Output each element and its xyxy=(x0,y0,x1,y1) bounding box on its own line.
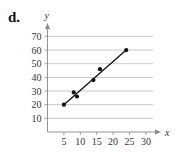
y-tick-label: 30 xyxy=(32,86,42,97)
x-tick-label: 20 xyxy=(108,136,118,147)
data-point xyxy=(98,67,102,71)
data-point xyxy=(124,48,128,52)
y-tick-label: 50 xyxy=(32,58,42,69)
y-tick-label: 20 xyxy=(32,99,42,110)
data-point xyxy=(62,103,66,107)
data-point xyxy=(91,78,95,82)
y-tick-label: 70 xyxy=(32,31,42,42)
y-axis-arrow-icon xyxy=(45,23,50,29)
data-point xyxy=(75,94,79,98)
y-tick-label: 60 xyxy=(32,45,42,56)
data-point xyxy=(72,90,76,94)
x-axis-arrow-icon xyxy=(155,130,161,135)
y-tick-label: 40 xyxy=(32,72,42,83)
x-axis-label: x xyxy=(164,127,170,138)
x-tick-label: 5 xyxy=(61,136,66,147)
y-tick-label: 10 xyxy=(32,113,42,124)
scatter-chart: 1020304050607051015202530xy xyxy=(0,0,176,152)
x-tick-label: 25 xyxy=(125,136,135,147)
x-tick-label: 15 xyxy=(92,136,102,147)
x-tick-label: 10 xyxy=(75,136,85,147)
y-axis-label: y xyxy=(44,10,50,21)
x-tick-label: 30 xyxy=(141,136,151,147)
